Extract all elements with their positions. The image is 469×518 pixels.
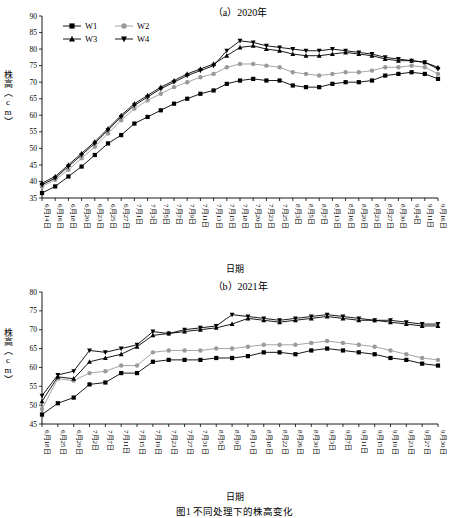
svg-text:80: 80: [30, 45, 38, 54]
svg-text:8月9日: 8月9日: [233, 430, 241, 451]
data-point-W2: [357, 70, 361, 74]
svg-text:7月11日: 7月11日: [122, 430, 130, 454]
svg-text:8月5日: 8月5日: [217, 430, 225, 451]
data-point-W1: [278, 78, 282, 82]
data-point-W1: [304, 85, 308, 89]
svg-text:8月16日: 8月16日: [347, 204, 355, 229]
data-point-W1: [370, 78, 374, 82]
svg-text:65: 65: [30, 344, 38, 353]
svg-text:45: 45: [30, 420, 38, 429]
svg-text:70: 70: [30, 78, 38, 87]
svg-text:9月4日: 9月4日: [413, 204, 421, 225]
svg-text:6月18日: 6月18日: [43, 430, 51, 455]
data-point-W2: [388, 348, 392, 352]
svg-text:7月9日: 7月9日: [188, 204, 196, 225]
data-point-W2: [167, 348, 171, 352]
data-point-W1: [56, 401, 60, 405]
data-point-W1: [357, 80, 361, 84]
svg-text:7月23日: 7月23日: [267, 204, 275, 229]
svg-text:9月27日: 9月27日: [423, 430, 431, 455]
x-ticks: 6月18日6月25日6月29日7月2日7月7日7月11日7月15日7月19日7月…: [42, 424, 447, 455]
svg-text:7月1日: 7月1日: [135, 204, 143, 225]
data-point-W2: [277, 343, 281, 347]
data-point-W1: [167, 358, 171, 362]
data-point-W2: [383, 65, 387, 69]
svg-text:80: 80: [30, 288, 38, 297]
data-point-W2: [325, 339, 329, 343]
data-point-W2: [357, 343, 361, 347]
data-point-W1: [423, 72, 427, 76]
svg-text:9月11日: 9月11日: [360, 430, 368, 454]
data-point-W2: [151, 350, 155, 354]
svg-text:8月13日: 8月13日: [333, 204, 341, 229]
data-point-W1: [80, 164, 84, 168]
svg-text:7月2日: 7月2日: [91, 430, 99, 451]
data-point-W1: [246, 354, 250, 358]
data-point-W2: [277, 65, 281, 69]
svg-text:6月23日: 6月23日: [96, 204, 104, 229]
svg-text:40: 40: [30, 177, 38, 186]
data-point-W1: [159, 108, 163, 112]
data-point-W2: [404, 352, 408, 356]
data-point-W2: [238, 62, 242, 66]
data-point-W1: [262, 350, 266, 354]
svg-text:75: 75: [30, 61, 38, 70]
data-point-W2: [225, 65, 229, 69]
data-point-W1: [225, 82, 229, 86]
data-point-W2: [246, 344, 250, 348]
data-point-W1: [198, 358, 202, 362]
series-W2: [40, 339, 440, 411]
svg-text:8月26日: 8月26日: [296, 430, 304, 455]
svg-text:60: 60: [30, 363, 38, 372]
svg-text:7月15日: 7月15日: [228, 204, 236, 229]
data-point-W1: [198, 92, 202, 96]
svg-text:8月18日: 8月18日: [265, 430, 273, 455]
svg-text:8月3日: 8月3日: [294, 204, 302, 225]
svg-text:7月25日: 7月25日: [281, 204, 289, 229]
data-point-W1: [341, 348, 345, 352]
panel-a-plot: 3540455055606570758085906月14日6月16日6月18日6…: [0, 0, 469, 262]
data-point-W1: [119, 371, 123, 375]
svg-text:9月7日: 9月7日: [344, 430, 352, 451]
svg-text:7月19日: 7月19日: [154, 430, 162, 455]
data-point-W1: [72, 396, 76, 400]
data-point-W2: [343, 70, 347, 74]
svg-text:8月23日: 8月23日: [373, 204, 381, 229]
data-point-W1: [251, 77, 255, 81]
svg-text:6月18日: 6月18日: [69, 204, 77, 229]
svg-text:6月29日: 6月29日: [75, 430, 83, 455]
svg-text:8月27日: 8月27日: [386, 204, 394, 229]
data-point-W1: [330, 82, 334, 86]
data-point-W2: [309, 341, 313, 345]
svg-text:7月18日: 7月18日: [241, 204, 249, 229]
svg-text:60: 60: [30, 111, 38, 120]
legend-label-W4: W4: [137, 34, 150, 44]
svg-text:8月7日: 8月7日: [320, 204, 328, 225]
data-point-W1: [383, 73, 387, 77]
data-point-W1: [317, 85, 321, 89]
data-point-W1: [151, 360, 155, 364]
data-point-W2: [135, 363, 139, 367]
data-point-W1: [40, 191, 44, 195]
data-point-W1: [291, 83, 295, 87]
data-point-W2: [40, 407, 44, 411]
svg-text:50: 50: [30, 144, 38, 153]
data-point-W2: [341, 341, 345, 345]
data-point-W1: [230, 356, 234, 360]
svg-text:7月23日: 7月23日: [170, 430, 178, 455]
data-point-W1: [436, 77, 440, 81]
data-point-W2: [436, 72, 440, 76]
data-point-W2: [182, 348, 186, 352]
legend-label-W3: W3: [85, 34, 97, 44]
data-point-W2: [330, 72, 334, 76]
data-point-W1: [325, 346, 329, 350]
data-point-W2: [396, 65, 400, 69]
svg-text:55: 55: [30, 127, 38, 136]
svg-text:6月25日: 6月25日: [109, 204, 117, 229]
svg-text:6月14日: 6月14日: [43, 204, 51, 229]
data-point-W1: [182, 358, 186, 362]
data-point-W1: [135, 371, 139, 375]
data-point-W2: [293, 343, 297, 347]
svg-text:7月7日: 7月7日: [175, 204, 183, 225]
svg-text:9月23日: 9月23日: [407, 430, 415, 455]
